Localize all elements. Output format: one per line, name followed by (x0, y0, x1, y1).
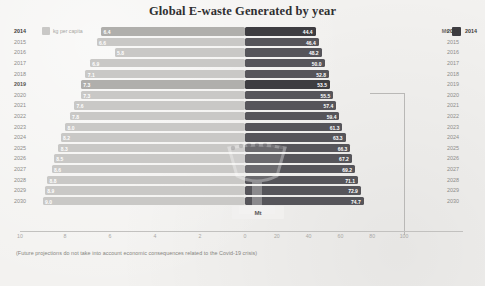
chart-page: Global E-waste Generated by year kg per … (0, 0, 485, 286)
y-axis-year-label-right: 2028 (447, 175, 473, 186)
y-axis-year-label-right: 2027 (447, 164, 473, 175)
y-axis-year-label-left: 2020 (14, 90, 38, 101)
y-axis-year-label-right: 2026 (447, 153, 473, 164)
bar-mt: 61.3 (245, 123, 342, 131)
watermark-label: Mt (232, 206, 284, 219)
bar-mt: 59.4 (245, 112, 339, 120)
bar-kg-per-capita: 6.4 (101, 27, 245, 35)
chart-row: 20227.859.42022 (14, 111, 471, 122)
x-axis-tick-left: 0 (244, 233, 247, 239)
x-axis-tick-left: 6 (109, 233, 112, 239)
chart-row: 20146.444.42014 (14, 26, 471, 37)
bar-kg-per-capita: 8.2 (61, 133, 246, 141)
chart-row: 20238.061.32023 (14, 122, 471, 133)
y-axis-year-label-left: 2027 (14, 164, 38, 175)
y-axis-year-label-left: 2017 (14, 58, 38, 69)
chart-row: 20165.848.22016 (14, 47, 471, 58)
y-axis-year-label-right: 2025 (447, 143, 473, 154)
x-axis-tick-right: 40 (306, 233, 312, 239)
chart-row: 20187.152.82018 (14, 69, 471, 80)
bar-kg-per-capita: 9.0 (43, 197, 246, 205)
y-axis-year-label-left: 2016 (14, 47, 38, 58)
chart-row: 20268.567.22026 (14, 153, 471, 164)
y-axis-year-label-right: 2029 (447, 185, 473, 196)
chart-row: 20278.669.22027 (14, 164, 471, 175)
bar-kg-per-capita: 7.3 (81, 91, 245, 99)
x-axis-tick-right: 20 (274, 233, 280, 239)
y-axis-year-label-right: 2014 (447, 26, 473, 37)
bar-value-label-kg: 9.0 (45, 197, 52, 208)
y-axis-year-label-left: 2024 (14, 132, 38, 143)
bar-mt: 48.2 (245, 48, 322, 56)
bar-mt: 67.2 (245, 154, 352, 162)
axis-bracket-top (370, 93, 405, 94)
bar-kg-per-capita: 8.0 (65, 123, 245, 131)
bar-mt: 44.4 (245, 27, 316, 35)
chart-plot-area: 20146.444.4201420156.646.4201520165.848.… (14, 26, 471, 226)
y-axis-year-label-right: 2023 (447, 122, 473, 133)
y-axis-year-label-right: 2015 (447, 37, 473, 48)
bar-mt: 71.1 (245, 176, 358, 184)
bar-kg-per-capita: 5.8 (115, 48, 246, 56)
chart-row: 20298.972.92029 (14, 185, 471, 196)
page-title: Global E-waste Generated by year (0, 4, 485, 19)
bar-mt: 46.4 (245, 38, 319, 46)
chart-row: 20176.950.02017 (14, 58, 471, 69)
y-axis-year-label-left: 2014 (14, 26, 38, 37)
y-axis-year-label-right: 2021 (447, 100, 473, 111)
x-axis-tick-right: 80 (369, 233, 375, 239)
bar-mt: 50.0 (245, 59, 325, 67)
bar-kg-per-capita: 7.1 (85, 70, 245, 78)
x-axis-tick-left: 4 (154, 233, 157, 239)
bar-kg-per-capita: 8.6 (52, 165, 246, 173)
y-axis-year-label-left: 2025 (14, 143, 38, 154)
chart-row: 20207.355.52020 (14, 90, 471, 101)
x-axis-tick-left: 8 (64, 233, 67, 239)
bar-mt: 52.8 (245, 70, 329, 78)
y-axis-year-label-right: 2016 (447, 47, 473, 58)
bar-mt: 66.3 (245, 144, 350, 152)
chart-row: 20156.646.42015 (14, 37, 471, 48)
y-axis-year-label-left: 2022 (14, 111, 38, 122)
y-axis-year-label-right: 2020 (447, 90, 473, 101)
y-axis-year-label-left: 2018 (14, 69, 38, 80)
axis-bracket-right (404, 93, 405, 235)
chart-row: 20288.871.12028 (14, 175, 471, 186)
bar-kg-per-capita: 7.3 (81, 80, 245, 88)
y-axis-year-label-right: 2022 (447, 111, 473, 122)
chart-row: 20258.366.32025 (14, 143, 471, 154)
bar-kg-per-capita: 8.9 (45, 186, 245, 194)
y-axis-year-label-right: 2017 (447, 58, 473, 69)
y-axis-year-label-right: 2018 (447, 69, 473, 80)
y-axis-year-label-right: 2019 (447, 79, 473, 90)
bar-mt: 53.5 (245, 80, 330, 88)
bar-value-label-mt: 74.7 (351, 197, 361, 208)
chart-row: 20217.657.42021 (14, 100, 471, 111)
x-axis-tick-left: 2 (199, 233, 202, 239)
y-axis-year-label-left: 2028 (14, 175, 38, 186)
y-axis-year-label-right: 2030 (447, 196, 473, 207)
bar-kg-per-capita: 7.6 (74, 101, 245, 109)
bar-kg-per-capita: 6.9 (90, 59, 245, 67)
bar-kg-per-capita: 7.8 (70, 112, 246, 120)
x-axis-tick-left: 10 (17, 233, 23, 239)
x-axis-tick-right: 100 (400, 233, 409, 239)
bar-mt: 74.7 (245, 197, 364, 205)
y-axis-year-label-left: 2015 (14, 37, 38, 48)
x-axis-tick-right: 60 (338, 233, 344, 239)
x-axis-line (20, 231, 463, 232)
footnote-text: (Future projections do not take into acc… (16, 250, 257, 256)
bar-mt: 55.5 (245, 91, 333, 99)
chart-row: 20309.074.72030 (14, 196, 471, 207)
y-axis-year-label-left: 2019 (14, 79, 38, 90)
y-axis-year-label-left: 2030 (14, 196, 38, 207)
y-axis-year-label-left: 2023 (14, 122, 38, 133)
bar-kg-per-capita: 8.8 (47, 176, 245, 184)
bar-mt: 69.2 (245, 165, 355, 173)
bar-mt: 57.4 (245, 101, 336, 109)
chart-row: 20197.353.52019 (14, 79, 471, 90)
bar-kg-per-capita: 8.3 (58, 144, 245, 152)
bar-kg-per-capita: 8.5 (54, 154, 245, 162)
y-axis-year-label-right: 2024 (447, 132, 473, 143)
bar-kg-per-capita: 6.6 (97, 38, 246, 46)
